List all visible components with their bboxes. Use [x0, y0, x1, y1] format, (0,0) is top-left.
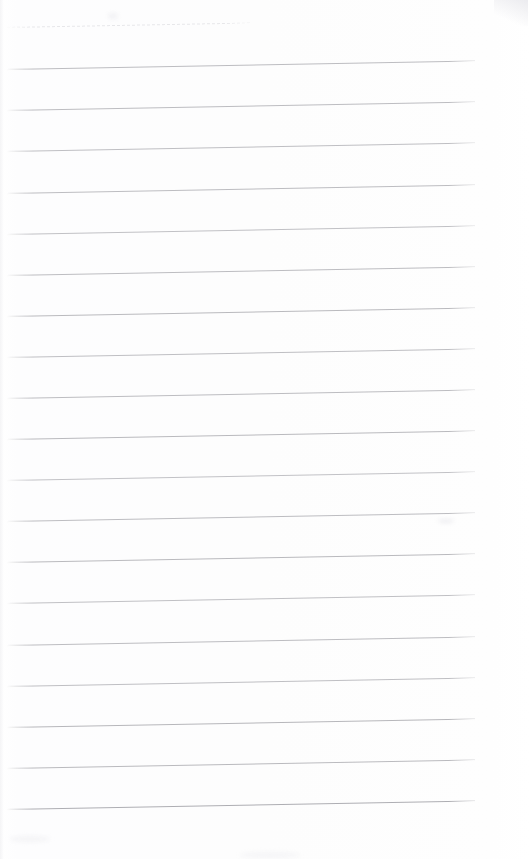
rule-14 [7, 594, 475, 604]
scanned-page [0, 0, 530, 859]
smudge-top-center [108, 13, 118, 19]
page-edge-shadow-left [0, 0, 4, 859]
rule-11 [7, 471, 475, 481]
rule-8 [7, 348, 475, 358]
smudge-mid-right [438, 519, 454, 523]
rule-15 [7, 636, 475, 646]
rule-2 [7, 101, 475, 111]
paper-texture [0, 0, 530, 859]
rule-19 [7, 800, 475, 810]
rule-4 [7, 184, 475, 194]
rule-1 [7, 60, 475, 70]
smudge-bottom-center [240, 852, 300, 858]
rule-17 [7, 718, 475, 728]
corner-mark-top-right-icon [494, 0, 528, 26]
rule-6 [7, 266, 475, 276]
rule-9 [7, 389, 475, 399]
rule-18 [7, 759, 475, 769]
guide-line-dashed [7, 23, 250, 28]
rule-3 [7, 142, 475, 152]
rule-10 [7, 430, 475, 440]
rule-7 [7, 307, 475, 317]
rule-5 [7, 225, 475, 235]
rule-12 [7, 512, 475, 522]
rule-16 [7, 677, 475, 687]
rule-13 [7, 553, 475, 563]
smudge-bottom-left [10, 836, 50, 842]
